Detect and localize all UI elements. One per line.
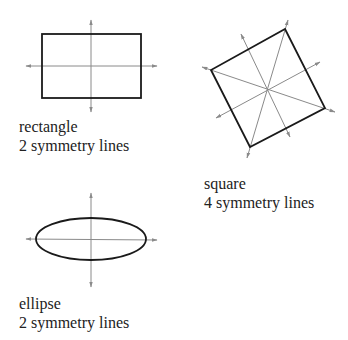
rectangle-label: rectangle: [19, 118, 78, 136]
rectangle-figure: [26, 20, 157, 112]
ellipse-caption: 2 symmetry lines: [19, 314, 129, 332]
square-figure: [202, 20, 335, 158]
square-caption: 4 symmetry lines: [204, 194, 314, 212]
ellipse-horizontal-symmetry-line: [26, 239, 157, 240]
rectangle-caption: 2 symmetry lines: [19, 137, 129, 155]
symmetry-diagram: [0, 0, 348, 340]
square-label: square: [204, 175, 246, 193]
ellipse-figure: [26, 193, 157, 287]
ellipse-label: ellipse: [19, 295, 61, 313]
